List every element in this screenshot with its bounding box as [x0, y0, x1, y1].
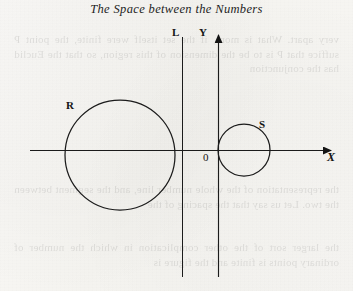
label-line-l: L	[172, 27, 179, 38]
geometry-diagram	[0, 0, 353, 291]
label-axis-y: Y	[199, 27, 207, 38]
label-circle-s: S	[259, 119, 265, 130]
label-origin: 0	[203, 152, 209, 163]
label-axis-x: X	[327, 152, 335, 163]
label-circle-r: R	[66, 100, 74, 111]
book-page: very apart. What is more, if the set its…	[0, 0, 353, 291]
circle-r	[65, 100, 175, 210]
